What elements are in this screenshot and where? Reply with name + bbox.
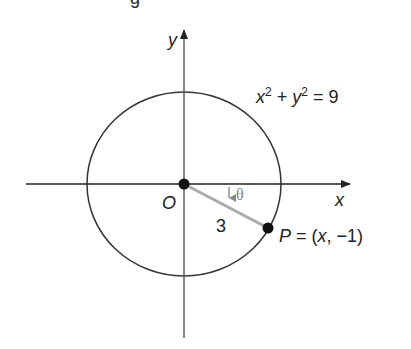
x-axis-label: x [334, 190, 345, 210]
point-p [263, 223, 274, 234]
theta-label: θ [236, 186, 244, 203]
circle-equation: x2 + y2 = 9 [255, 85, 338, 107]
origin-label: O [162, 193, 176, 213]
unit-circle-diagram: g y x O 3 θ x2 + y2 = 9 P = (x, −1) [0, 0, 411, 349]
point-p-label: P = (x, −1) [279, 226, 363, 246]
y-axis-label: y [166, 30, 178, 50]
radius-label: 3 [216, 216, 226, 236]
cropped-text: g [130, 0, 140, 8]
origin-point [179, 179, 190, 190]
